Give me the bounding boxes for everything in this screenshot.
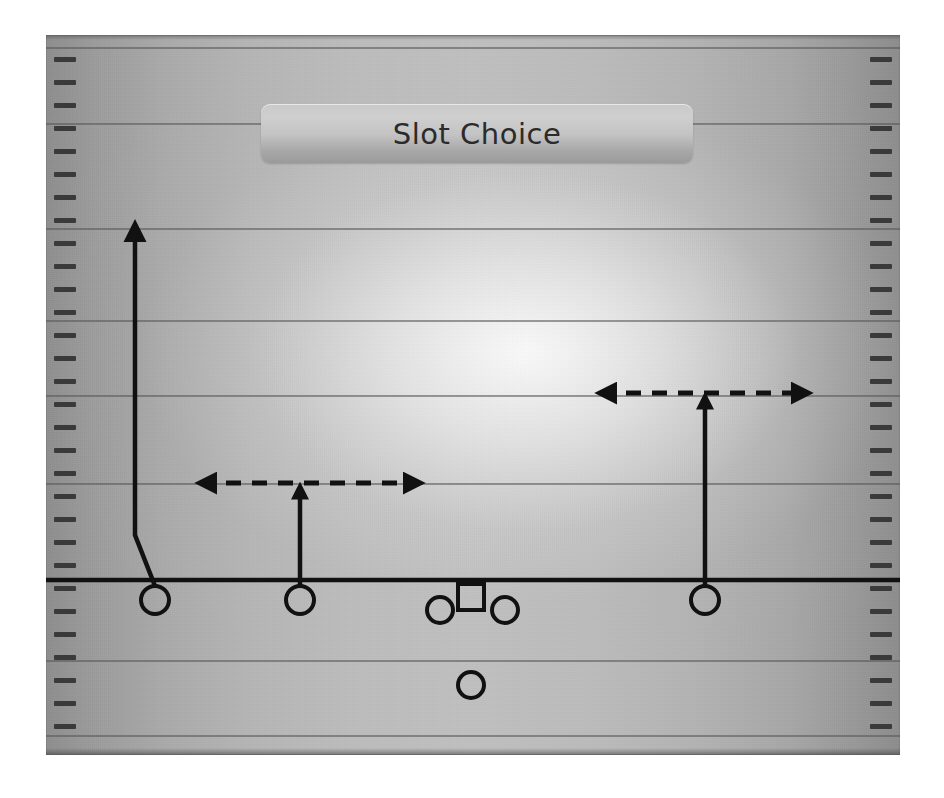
hash-mark (54, 563, 76, 568)
hash-mark (870, 632, 892, 637)
hash-mark (54, 402, 76, 407)
hash-mark (54, 287, 76, 292)
hash-mark (870, 379, 892, 384)
yard-line (46, 395, 900, 397)
hash-mark (870, 471, 892, 476)
hash-mark (54, 448, 76, 453)
yard-line (46, 47, 900, 49)
hash-mark (870, 724, 892, 729)
play-diagram-root: Slot Choice (0, 0, 944, 798)
hash-mark (54, 471, 76, 476)
hash-mark (54, 57, 76, 62)
hash-mark (870, 586, 892, 591)
hash-mark (870, 678, 892, 683)
hash-mark (54, 517, 76, 522)
hash-mark (870, 701, 892, 706)
hash-mark (870, 425, 892, 430)
hash-mark (870, 264, 892, 269)
hash-mark (870, 57, 892, 62)
hash-mark (870, 172, 892, 177)
yard-line (46, 320, 900, 322)
hash-mark (54, 701, 76, 706)
hash-mark (870, 310, 892, 315)
play-title-banner: Slot Choice (261, 104, 693, 163)
hash-mark (870, 356, 892, 361)
hash-mark (54, 632, 76, 637)
hash-mark (54, 724, 76, 729)
hash-mark (54, 241, 76, 246)
hash-mark (54, 609, 76, 614)
hash-mark (54, 126, 76, 131)
hash-mark (54, 333, 76, 338)
hash-mark (54, 264, 76, 269)
hash-mark (54, 655, 76, 660)
hash-mark (870, 80, 892, 85)
yard-line (46, 483, 900, 485)
hash-mark (870, 609, 892, 614)
hash-mark (870, 655, 892, 660)
yard-line (46, 735, 900, 737)
hash-mark (54, 172, 76, 177)
hash-mark (870, 149, 892, 154)
hash-mark (870, 241, 892, 246)
hash-mark (54, 310, 76, 315)
yard-line (46, 660, 900, 662)
hash-mark (54, 356, 76, 361)
hash-mark (870, 103, 892, 108)
hash-mark (870, 195, 892, 200)
hash-mark (870, 126, 892, 131)
hash-mark (870, 333, 892, 338)
hash-mark (54, 195, 76, 200)
hash-mark (870, 563, 892, 568)
play-title-text: Slot Choice (393, 117, 562, 151)
hash-mark (54, 494, 76, 499)
hash-mark (870, 402, 892, 407)
hash-mark (54, 678, 76, 683)
hash-mark (54, 218, 76, 223)
hash-mark (870, 517, 892, 522)
hash-mark (54, 149, 76, 154)
hash-mark (54, 103, 76, 108)
hash-mark (54, 80, 76, 85)
hash-mark (54, 540, 76, 545)
hash-mark (870, 448, 892, 453)
hash-mark (870, 540, 892, 545)
hash-mark (870, 494, 892, 499)
yard-line (46, 228, 900, 230)
hash-mark (54, 379, 76, 384)
hash-mark (870, 218, 892, 223)
hash-mark (870, 287, 892, 292)
hash-mark (54, 586, 76, 591)
hash-mark (54, 425, 76, 430)
